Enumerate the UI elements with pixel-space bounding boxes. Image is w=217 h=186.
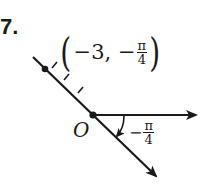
angle-arc [117, 116, 124, 136]
point-dot [42, 66, 49, 73]
point-label: ( −3, − π 4 ) [58, 32, 163, 72]
angle-fraction: π 4 [143, 119, 154, 146]
point-angle-fraction: π 4 [137, 39, 148, 66]
open-paren: ( [60, 32, 71, 72]
point-coords: −3, − [74, 40, 136, 64]
angle-label: − π 4 [129, 119, 154, 146]
origin-dot [89, 111, 96, 118]
close-paren: ) [149, 32, 160, 72]
polar-diagram [0, 0, 217, 186]
origin-label: O [73, 118, 89, 142]
angle-sign: − [129, 123, 142, 142]
